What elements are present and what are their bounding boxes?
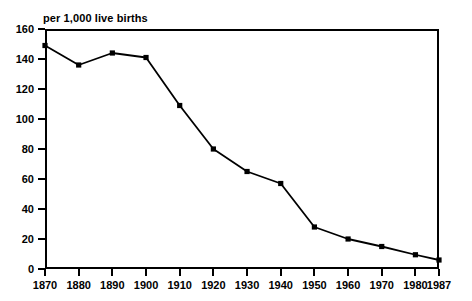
x-axis-tick-label: 1980	[403, 279, 427, 291]
x-axis-tick-mark	[313, 269, 315, 276]
y-axis-tick-mark	[38, 148, 45, 150]
y-axis-tick-label: 160	[16, 23, 34, 35]
x-axis-tick-mark	[212, 269, 214, 276]
x-axis-tick-label: 1920	[201, 279, 225, 291]
x-axis-tick-label: 1960	[336, 279, 360, 291]
y-axis-tick-label: 100	[16, 113, 34, 125]
data-point-marker	[244, 169, 249, 174]
y-axis-tick-mark	[38, 58, 45, 60]
x-axis-tick-mark	[111, 269, 113, 276]
x-axis-tick-labels: 1870188018901900191019201930194019501960…	[45, 279, 439, 295]
x-axis-tick-label: 1987	[427, 279, 451, 291]
x-axis-tick-mark	[78, 269, 80, 276]
y-axis-tick-mark	[38, 118, 45, 120]
data-point-marker	[278, 181, 283, 186]
y-axis-tick-label: 40	[22, 203, 34, 215]
chart-figure: per 1,000 live births 020406080100120140…	[0, 0, 472, 301]
data-series-line	[45, 29, 439, 269]
x-axis-tick-mark	[381, 269, 383, 276]
data-point-marker	[76, 62, 81, 67]
y-axis-tick-label: 80	[22, 143, 34, 155]
y-axis-tick-label: 60	[22, 173, 34, 185]
x-axis-tick-label: 1970	[370, 279, 394, 291]
y-axis-tick-mark	[38, 28, 45, 30]
y-axis-tick-label: 120	[16, 83, 34, 95]
x-axis-tick-mark	[246, 269, 248, 276]
data-point-marker	[177, 103, 182, 108]
y-axis-tick-label: 20	[22, 233, 34, 245]
y-axis-tick-mark	[38, 88, 45, 90]
data-point-marker	[110, 50, 115, 55]
x-axis-tick-mark	[145, 269, 147, 276]
data-point-marker	[211, 146, 216, 151]
x-axis-tick-mark	[280, 269, 282, 276]
y-axis-tick-label: 140	[16, 53, 34, 65]
y-axis-tick-label: 0	[28, 263, 34, 275]
x-axis-tick-mark	[44, 269, 46, 276]
chart-title: per 1,000 live births	[43, 12, 148, 24]
data-point-marker	[345, 236, 350, 241]
x-axis-tick-label: 1890	[100, 279, 124, 291]
x-axis-tick-label: 1950	[302, 279, 326, 291]
y-axis-tick-mark	[38, 238, 45, 240]
y-axis-tick-mark	[38, 208, 45, 210]
x-axis-tick-label: 1910	[167, 279, 191, 291]
y-axis-tick-labels: 020406080100120140160	[0, 29, 34, 269]
x-axis-tick-mark	[414, 269, 416, 276]
data-point-marker	[413, 252, 418, 257]
x-axis-tick-label: 1870	[33, 279, 57, 291]
x-axis-tick-label: 1940	[268, 279, 292, 291]
y-axis-tick-mark	[38, 178, 45, 180]
data-point-marker	[379, 244, 384, 249]
x-axis-tick-mark	[438, 269, 440, 276]
data-point-marker	[143, 55, 148, 60]
data-point-marker	[436, 257, 441, 262]
data-point-marker	[42, 43, 47, 48]
x-axis-tick-mark	[347, 269, 349, 276]
x-axis-tick-label: 1930	[235, 279, 259, 291]
x-axis-tick-label: 1880	[66, 279, 90, 291]
data-point-marker	[312, 224, 317, 229]
x-axis-tick-label: 1900	[134, 279, 158, 291]
series-polyline	[45, 46, 439, 261]
x-axis-tick-mark	[179, 269, 181, 276]
x-axis-tick-marks	[45, 269, 439, 277]
